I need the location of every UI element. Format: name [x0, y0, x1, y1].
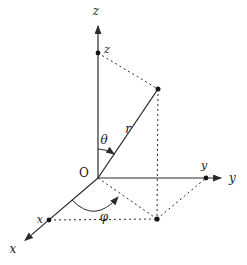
y-axis-intercept-dot	[204, 176, 209, 181]
spherical-coordinates-figure: z z y y x x O r θ φ	[0, 0, 247, 265]
y-intercept-label: y	[200, 159, 208, 172]
origin-label: O	[79, 166, 89, 180]
diagram-svg: z z y y x x O r θ φ	[0, 0, 247, 265]
dashed-projection-to-y-intercept	[157, 178, 206, 219]
z-axis-intercept-dot	[96, 51, 101, 56]
theta-label: θ	[100, 133, 108, 147]
x-axis-line	[25, 178, 98, 240]
y-axis-label: y	[228, 171, 236, 185]
theta-angle-arc	[98, 149, 114, 154]
z-axis-label: z	[92, 4, 100, 18]
x-axis-label: x	[10, 242, 17, 256]
xy-plane-projection-dot	[154, 216, 159, 221]
phi-label: φ	[100, 210, 109, 224]
x-intercept-label: x	[37, 213, 44, 226]
dashed-point-to-projection	[157, 89, 158, 219]
radius-endpoint-dot	[156, 87, 161, 92]
z-intercept-label: z	[103, 43, 110, 56]
phi-angle-arc	[72, 197, 118, 211]
dashed-z-intercept-to-point	[98, 53, 158, 89]
x-axis-intercept-dot	[47, 218, 52, 223]
